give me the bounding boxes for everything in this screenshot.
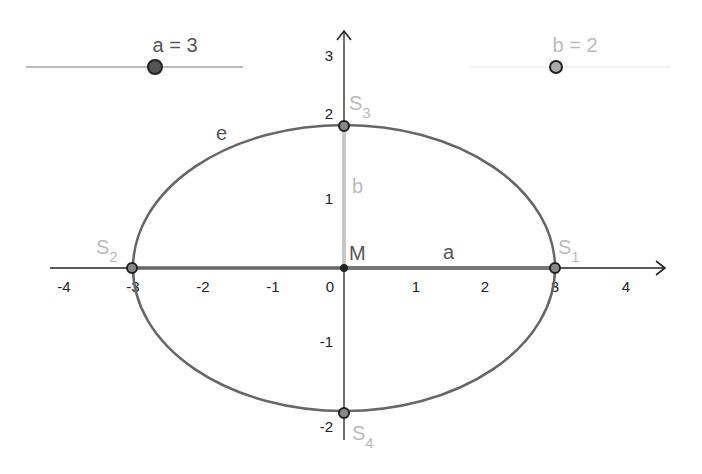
x-tick: 1 (412, 278, 420, 295)
geometry-canvas[interactable]: a = 3 b = 2 -4 -3 -2 -1 0 1 2 3 4 3 2 1 … (0, 0, 702, 474)
x-tick: 2 (481, 278, 489, 295)
point-s3-label: S3 (349, 92, 371, 121)
slider-b-knob[interactable] (550, 61, 562, 73)
x-tick: -2 (196, 278, 209, 295)
slider-b[interactable]: b = 2 (470, 34, 670, 73)
point-s4[interactable] (339, 408, 349, 418)
point-s3[interactable] (339, 121, 349, 131)
point-s2-label: S2 (96, 236, 118, 265)
x-tick: -1 (266, 278, 279, 295)
y-tick: 1 (325, 190, 333, 207)
point-m-label: M (349, 242, 366, 264)
point-m[interactable] (340, 264, 348, 272)
point-s1-label: S1 (558, 236, 580, 265)
x-tick: 4 (622, 278, 630, 295)
y-tick: -2 (320, 418, 333, 435)
y-tick: -1 (320, 333, 333, 350)
slider-a-label: a = 3 (152, 34, 197, 56)
point-s2[interactable] (127, 263, 137, 273)
slider-b-label: b = 2 (552, 34, 597, 56)
y-tick: 3 (325, 47, 333, 64)
x-tick: -4 (57, 278, 70, 295)
ellipse-label: e (216, 122, 227, 144)
segment-a-label: a (443, 241, 455, 263)
point-s1[interactable] (550, 263, 560, 273)
slider-a[interactable]: a = 3 (26, 34, 243, 74)
y-tick: 2 (325, 105, 333, 122)
x-tick: 0 (326, 278, 334, 295)
slider-a-knob[interactable] (148, 60, 162, 74)
segment-b-label: b (352, 175, 363, 197)
point-s4-label: S4 (352, 422, 374, 451)
